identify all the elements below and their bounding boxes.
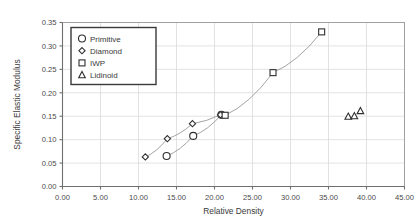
x-tick-label: 40.00: [357, 193, 376, 202]
legend-label-iwp: IWP: [90, 59, 105, 68]
x-tick-label: 20.00: [205, 193, 224, 202]
x-tick-label: 35.00: [319, 193, 338, 202]
legend-marker-iwp: [79, 60, 85, 66]
chart-legend: PrimitiveDiamondIWPLidinoid: [71, 28, 156, 85]
y-tick-label: 0.15: [42, 112, 57, 121]
x-axis-title: Relative Density: [203, 206, 264, 216]
legend-label-primitive: Primitive: [90, 35, 121, 44]
data-point-iwp: [270, 70, 276, 76]
x-tick-label: 5.00: [93, 193, 108, 202]
x-tick-label: 0.00: [55, 193, 70, 202]
data-point-primitive: [190, 132, 197, 139]
data-point-iwp: [319, 29, 325, 35]
y-tick-label: 0.35: [42, 18, 57, 27]
x-tick-label: 25.00: [243, 193, 262, 202]
x-tick-label: 45.00: [395, 193, 414, 202]
chart-canvas: 0.005.0010.0015.0020.0025.0030.0035.0040…: [0, 0, 419, 221]
y-tick-label: 0.05: [42, 159, 57, 168]
y-tick-label: 0.00: [42, 182, 57, 191]
y-tick-label: 0.20: [42, 89, 57, 98]
x-tick-label: 15.00: [167, 193, 186, 202]
y-tick-label: 0.10: [42, 135, 57, 144]
data-point-iwp: [222, 112, 228, 118]
x-tick-label: 30.00: [281, 193, 300, 202]
y-tick-label: 0.30: [42, 42, 57, 51]
legend-label-lidinoid: Lidinoid: [90, 71, 118, 80]
x-tick-label: 10.00: [129, 193, 148, 202]
y-axis-title: Specific Elastic Modulus: [12, 59, 22, 149]
scatter-chart: 0.005.0010.0015.0020.0025.0030.0035.0040…: [0, 0, 419, 221]
y-tick-label: 0.25: [42, 65, 57, 74]
data-point-primitive: [163, 153, 170, 160]
legend-marker-primitive: [79, 35, 86, 42]
legend-label-diamond: Diamond: [90, 47, 122, 56]
